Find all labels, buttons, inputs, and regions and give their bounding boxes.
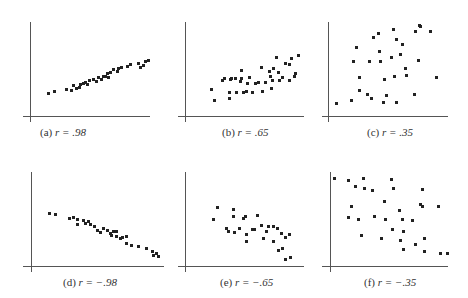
data-point [350,205,353,208]
data-point [142,64,145,67]
caption-f: (f) r = −.35 [364,276,416,288]
data-point [358,89,361,92]
data-point [393,75,396,78]
x-axis-d [23,266,164,267]
data-point [109,71,112,74]
data-point [284,62,287,65]
data-point [227,230,230,233]
data-point [284,236,287,239]
data-point [78,86,81,89]
caption-d: (d) r = −.98 [63,276,117,288]
data-point [277,249,280,252]
data-point [423,237,426,240]
data-point [261,90,264,93]
caption-label: (e) [220,276,235,288]
data-point [390,178,393,181]
data-point [355,46,358,49]
caption-label: (b) [222,126,238,138]
data-point [260,224,263,227]
correlation-value: r = .35 [382,126,413,138]
data-point [238,227,241,230]
data-point [294,72,297,75]
data-point [379,60,382,63]
data-point [272,67,275,70]
data-point [293,75,296,78]
data-point [280,232,283,235]
data-point [439,252,442,255]
data-point [289,256,292,259]
data-point [333,177,336,180]
data-point [402,248,405,251]
data-point [257,81,260,84]
data-point [53,90,56,93]
data-point [419,25,422,28]
data-point [368,60,371,63]
data-point [277,71,280,74]
data-point [414,243,417,246]
data-point [335,102,338,105]
data-point [115,235,118,238]
data-point [256,214,259,217]
data-point [370,97,373,100]
data-point [100,78,103,81]
data-point [107,76,110,79]
y-axis-c [328,22,329,122]
data-point [245,240,248,243]
data-point [398,209,401,212]
data-point [47,92,50,95]
data-point [272,225,275,228]
data-point [288,79,291,82]
data-point [276,227,279,230]
data-point [110,234,113,237]
data-point [70,89,73,92]
data-point [228,97,231,100]
data-point [121,236,124,239]
data-point [260,66,263,69]
data-point [269,75,272,78]
data-point [399,53,402,56]
data-point [54,213,57,216]
data-point [380,237,383,240]
data-point [275,56,278,59]
data-point [48,212,51,215]
data-point [373,215,376,218]
data-point [399,239,402,242]
data-point [233,231,236,234]
data-point [391,228,394,231]
data-point [270,87,273,90]
data-point [230,77,233,80]
data-point [130,244,133,247]
data-point [392,28,395,31]
x-axis-f [322,266,448,267]
caption-c: (c) r = .35 [367,126,413,138]
data-point [358,76,361,79]
data-point [264,81,267,84]
data-point [404,67,407,70]
data-point [437,205,440,208]
data-point [362,177,365,180]
data-point [288,63,291,66]
data-point [147,59,150,62]
caption-label: (c) [367,126,382,138]
data-point [352,60,355,63]
data-point [371,189,374,192]
data-point [245,90,248,93]
data-point [253,228,256,231]
data-point [414,30,417,33]
data-point [157,255,160,258]
data-point [392,187,395,190]
data-point [125,242,128,245]
data-point [93,225,96,228]
data-point [268,70,271,73]
caption-label: (a) [40,126,55,138]
data-point [76,218,79,221]
y-axis-f [330,172,331,272]
data-point [212,218,215,221]
data-point [102,227,105,230]
data-point [99,231,102,234]
data-point [88,79,91,82]
data-point [240,69,243,72]
data-point [223,77,226,80]
correlation-value: r = .98 [55,126,86,138]
data-point [401,43,404,46]
